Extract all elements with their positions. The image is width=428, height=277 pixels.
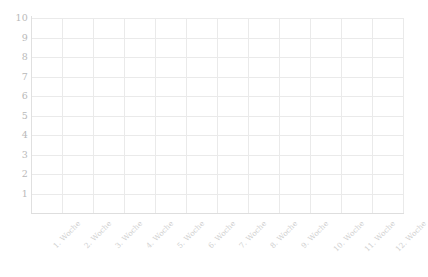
y-tick-label: 6 [0, 91, 28, 101]
x-tick-label: 3. Woche [113, 219, 144, 250]
gridline-vertical [341, 18, 342, 213]
y-tick-label: 9 [0, 33, 28, 43]
y-tick-label: 7 [0, 72, 28, 82]
gridline-vertical [372, 18, 373, 213]
gridline-vertical [279, 18, 280, 213]
y-tick-label: 8 [0, 52, 28, 62]
x-tick-label: 11. Woche [363, 219, 398, 254]
gridline-vertical [93, 18, 94, 213]
x-tick-label: 5. Woche [175, 219, 206, 250]
x-tick-label: 4. Woche [144, 219, 175, 250]
gridline-vertical [403, 18, 404, 213]
y-tick-label: 4 [0, 130, 28, 140]
x-tick-label: 7. Woche [237, 219, 268, 250]
y-axis-line [31, 16, 32, 214]
y-tick-label: 10 [0, 13, 28, 23]
gridline-vertical [186, 18, 187, 213]
gridline-vertical [248, 18, 249, 213]
gridline-vertical [310, 18, 311, 213]
x-tick-label: 9. Woche [299, 219, 330, 250]
x-tick-label: 8. Woche [268, 219, 299, 250]
gridline-vertical [155, 18, 156, 213]
x-tick-label: 10. Woche [332, 219, 367, 254]
gridline-vertical [217, 18, 218, 213]
x-tick-label: 6. Woche [206, 219, 237, 250]
y-tick-label: 3 [0, 150, 28, 160]
gridline-vertical [62, 18, 63, 213]
x-tick-label: 1. Woche [51, 219, 82, 250]
y-tick-label: 2 [0, 169, 28, 179]
y-tick-label: 5 [0, 111, 28, 121]
y-tick-label: 1 [0, 189, 28, 199]
x-axis-tick-labels: 1. Woche2. Woche3. Woche4. Woche5. Woche… [0, 213, 414, 277]
x-tick-label: 12. Woche [394, 219, 428, 254]
plot-area [31, 18, 403, 213]
x-tick-label: 2. Woche [82, 219, 113, 250]
gridline-vertical [124, 18, 125, 213]
